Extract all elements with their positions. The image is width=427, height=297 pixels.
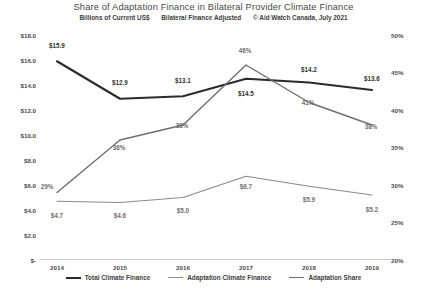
legend-label-share: Adaptation Share	[308, 274, 361, 281]
data-label-share-2014: 29%	[36, 183, 58, 190]
subtitle-note: Bilateral Finance Adjusted	[161, 14, 241, 21]
chart-legend: Total Climate Finance Adaptation Climate…	[0, 274, 427, 281]
data-label-adapt-2014: $4.7	[42, 212, 72, 219]
data-label-adapt-2016: $5.0	[168, 207, 198, 214]
x-tick-2015: 2015	[100, 264, 140, 271]
legend-label-total: Total Climate Finance	[85, 274, 151, 281]
y-left-tick-12: $12.0	[2, 107, 36, 114]
legend-item-adaptation-share[interactable]: Adaptation Share	[289, 274, 361, 281]
subtitle-credit: © Aid Watch Canada, July 2021	[253, 14, 347, 21]
x-tick-2014: 2014	[37, 264, 77, 271]
data-label-share-2019: 38%	[360, 123, 382, 130]
y-right-tick-25: 25%	[391, 219, 425, 226]
y-right-tick-35: 35%	[391, 144, 425, 151]
data-label-adapt-2015: $4.6	[105, 212, 135, 219]
data-label-share-2015: 36%	[108, 144, 130, 151]
y-right-tick-20: 20%	[391, 257, 425, 264]
subtitle-units: Billions of Current US$	[80, 14, 150, 21]
y-left-tick-2: $2.0	[2, 232, 36, 239]
data-label-total-2018: $14.2	[294, 66, 324, 73]
data-label-adapt-2019: $5.2	[357, 206, 387, 213]
y-left-tick-4: $4.0	[2, 207, 36, 214]
legend-item-adaptation-climate-finance[interactable]: Adaptation Climate Finance	[168, 274, 271, 281]
data-label-total-2017: $14.5	[231, 90, 261, 97]
y-left-tick-14: $14.0	[2, 82, 36, 89]
x-tick-2017: 2017	[226, 264, 266, 271]
data-label-adapt-2018: $5.9	[294, 196, 324, 203]
data-label-total-2016: $13.1	[168, 77, 198, 84]
y-right-tick-30: 30%	[391, 182, 425, 189]
legend-swatch-icon-total	[66, 277, 81, 279]
data-label-adapt-2017: $6.7	[231, 183, 261, 190]
x-tick-2018: 2018	[289, 264, 329, 271]
y-left-tick-18: $18.0	[2, 32, 36, 39]
y-right-tick-50: 50%	[391, 32, 425, 39]
y-right-tick-40: 40%	[391, 107, 425, 114]
chart-subtitle: Billions of Current US$ Bilateral Financ…	[0, 14, 427, 21]
data-label-share-2017: 46%	[234, 47, 256, 54]
y-right-tick-45: 45%	[391, 69, 425, 76]
y-left-tick-8: $8.0	[2, 157, 36, 164]
legend-swatch-icon-adapt	[168, 277, 183, 278]
legend-item-total-climate-finance[interactable]: Total Climate Finance	[66, 274, 151, 281]
y-left-tick-0: $-	[2, 257, 36, 264]
legend-swatch-icon-share	[289, 277, 304, 278]
legend-label-adapt: Adaptation Climate Finance	[187, 274, 271, 281]
data-label-total-2015: $12.9	[105, 79, 135, 86]
chart-container: Share of Adaptation Finance in Bilateral…	[0, 0, 427, 297]
chart-title: Share of Adaptation Finance in Bilateral…	[0, 2, 427, 12]
data-label-share-2016: 38%	[171, 122, 193, 129]
series-line-adaptation-climate-finance	[57, 176, 372, 202]
y-left-tick-6: $6.0	[2, 182, 36, 189]
data-label-total-2014: $15.9	[42, 42, 72, 49]
y-left-tick-16: $16.0	[2, 57, 36, 64]
y-left-tick-10: $10.0	[2, 132, 36, 139]
data-label-share-2018: 41%	[297, 99, 319, 106]
x-tick-2019: 2019	[352, 264, 392, 271]
x-tick-2016: 2016	[163, 264, 203, 271]
data-label-total-2019: $13.6	[357, 75, 387, 82]
